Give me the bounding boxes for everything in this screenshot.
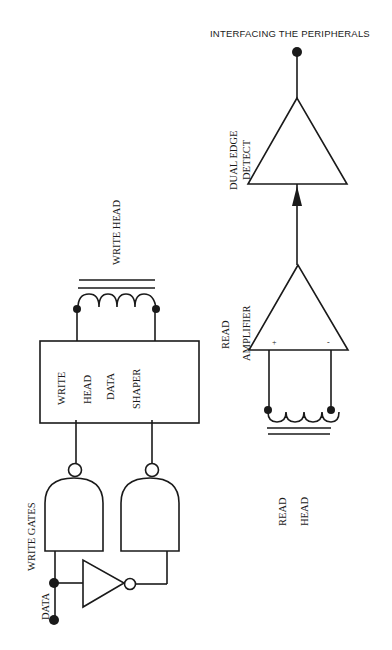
shaper-label-2: HEAD bbox=[82, 374, 93, 404]
amp-minus-sign: - bbox=[327, 338, 330, 347]
read-head-coil bbox=[268, 412, 339, 422]
shaper-label-3: DATA bbox=[105, 372, 116, 400]
gate2-inversion-bubble bbox=[146, 464, 159, 477]
dual-edge-label-2: DETECT bbox=[241, 139, 252, 180]
nand-gate-2 bbox=[121, 478, 179, 551]
circuit-diagram: INTERFACING THE PERIPHERALS DUAL EDGE DE… bbox=[0, 0, 392, 650]
read-head-label-2: HEAD bbox=[299, 496, 310, 526]
read-amp-label-2: AMPLIFIER bbox=[241, 306, 252, 361]
write-head-coil bbox=[78, 294, 156, 308]
dual-edge-label-1: DUAL EDGE bbox=[228, 131, 239, 190]
read-head-label-1: READ bbox=[277, 497, 288, 526]
read-amplifier-block bbox=[249, 265, 348, 350]
read-head-terminal-right bbox=[327, 406, 335, 414]
amp-plus-sign: + bbox=[272, 338, 277, 347]
write-gates-label: WRITE GATES bbox=[26, 502, 37, 571]
nand-gate-1 bbox=[45, 478, 103, 551]
write-head-terminal-right bbox=[152, 305, 160, 313]
arrow-up-icon bbox=[292, 186, 302, 206]
data-label: DATA bbox=[40, 592, 51, 620]
read-amp-label-1: READ bbox=[220, 320, 231, 349]
dual-edge-detect-block bbox=[248, 98, 347, 184]
inverter-bubble bbox=[125, 579, 136, 590]
shaper-label-1: WRITE bbox=[56, 372, 67, 405]
gate1-inversion-bubble bbox=[69, 464, 82, 477]
data-input-terminal bbox=[49, 615, 59, 625]
write-head-label: WRITE HEAD bbox=[111, 200, 122, 265]
inverter-gate bbox=[83, 560, 124, 607]
page-header: INTERFACING THE PERIPHERALS bbox=[210, 28, 370, 39]
shaper-label-4: SHAPER bbox=[131, 369, 142, 409]
